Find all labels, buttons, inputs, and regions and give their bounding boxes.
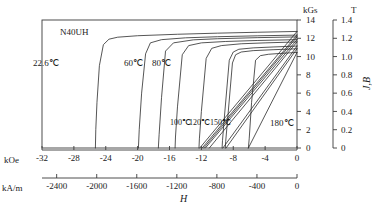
curve-100-j — [175, 40, 297, 148]
kam-tick-label: -1200 — [166, 181, 187, 191]
koe-tick-label: -24 — [100, 153, 112, 163]
koe-tick-label: -20 — [132, 153, 144, 163]
koe-tick-label: -32 — [36, 153, 48, 163]
tesla-tick-label: 0.2 — [341, 125, 352, 135]
curve-temperature-label: 60℃ — [124, 59, 143, 68]
tesla-tick-label: 0.8 — [341, 70, 353, 80]
kgs-tick-label: 6 — [306, 88, 311, 98]
kam-tick-label: 0 — [295, 181, 300, 191]
koe-tick-label: 0 — [295, 153, 300, 163]
kgs-tick-label: 14 — [306, 15, 316, 25]
tesla-tick-label: 0.6 — [341, 88, 353, 98]
curve-temperature-label: 120℃ — [189, 119, 210, 127]
kam-tick-label: -1600 — [126, 181, 147, 191]
koe-tick-label: -4 — [261, 153, 269, 163]
curve-temperature-label: 150℃ — [210, 119, 231, 127]
tesla-tick-label: 0.4 — [341, 107, 353, 117]
curve-180-b — [248, 52, 297, 148]
kgs-tick-label: 0 — [306, 143, 311, 153]
tesla-tick-label: 1.2 — [341, 33, 352, 43]
curve-temperature-label: 80℃ — [152, 59, 171, 68]
kgs-tick-label: 12 — [306, 33, 315, 43]
koe-tick-label: -28 — [68, 153, 80, 163]
curve-150-b — [223, 46, 297, 148]
plot-canvas: 141210864201.41.21.00.80.60.40.20-32-28-… — [0, 0, 372, 208]
koe-tick-label: -8 — [230, 153, 238, 163]
kam-tick-label: -2400 — [46, 181, 67, 191]
curve-120-b — [209, 42, 297, 148]
kgs-tick-label: 2 — [306, 125, 311, 135]
kgs-tick-label: 4 — [306, 107, 311, 117]
x-axis-name: H — [180, 194, 187, 204]
axis-unit-kam: kA/m — [2, 184, 23, 193]
kam-tick-label: -2000 — [86, 181, 107, 191]
curve-100-b — [205, 40, 297, 148]
curve-temperature-label: 180℃ — [270, 119, 294, 128]
kam-tick-label: -400 — [249, 181, 266, 191]
koe-tick-label: -16 — [164, 153, 176, 163]
curve-temperature-label: 22.6℃ — [33, 59, 59, 68]
kam-tick-label: -800 — [209, 181, 226, 191]
curve-22-6-b — [200, 31, 297, 148]
curve-165-b — [226, 49, 297, 148]
tesla-tick-label: 1.0 — [341, 52, 353, 62]
axis-unit-kgs: kGs — [303, 6, 318, 15]
axis-unit-tesla: T — [351, 6, 357, 15]
tesla-tick-label: 0 — [341, 143, 346, 153]
curve-22-6-j — [95, 31, 297, 148]
koe-tick-label: -12 — [195, 153, 207, 163]
curve-temperature-label: 100℃ — [170, 119, 191, 127]
tesla-tick-label: 1.4 — [341, 15, 353, 25]
kgs-tick-label: 8 — [306, 70, 311, 80]
demagnetization-curve-figure: 141210864201.41.21.00.80.60.40.20-32-28-… — [0, 0, 372, 208]
axis-unit-koe: kOe — [4, 156, 19, 165]
y-axis-name: J,B — [362, 77, 372, 90]
kgs-tick-label: 10 — [306, 52, 316, 62]
sample-label: N40UH — [60, 28, 89, 37]
